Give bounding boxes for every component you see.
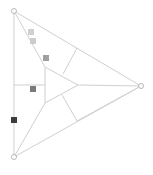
vertex-bottom-icon — [12, 155, 17, 160]
square-marker — [43, 55, 49, 61]
vertex-right-icon — [139, 84, 144, 89]
vertex-top-icon — [12, 9, 17, 14]
edge-segment — [78, 85, 141, 86]
triangle-diagram — [0, 0, 153, 175]
edge-segment — [14, 11, 45, 67]
edge-segment — [45, 85, 78, 103]
square-marker — [28, 29, 34, 35]
diagram-markers — [11, 29, 49, 123]
edge-segment — [77, 86, 141, 121]
square-marker — [11, 117, 17, 123]
edge-segment — [63, 48, 77, 74]
edge-segment — [62, 95, 77, 121]
square-marker — [30, 86, 36, 92]
square-marker — [30, 38, 36, 44]
edge-segment — [45, 67, 78, 85]
